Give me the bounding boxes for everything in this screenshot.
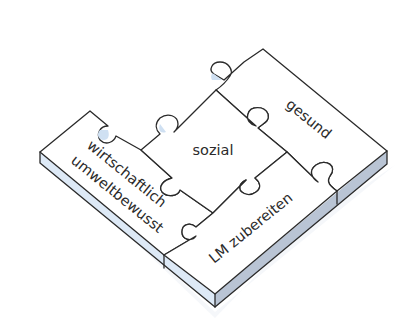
- puzzle-diagram: sozial gesund wirtschaftlich umweltbewus…: [0, 0, 411, 335]
- label-sozial: sozial: [193, 142, 234, 158]
